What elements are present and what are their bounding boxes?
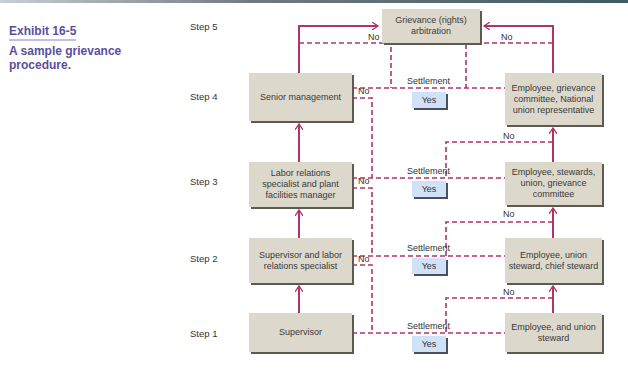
settlement-label-1: Settlement xyxy=(407,321,450,331)
no-label-left-4: No xyxy=(358,86,370,96)
no-label-right-2: No xyxy=(503,287,515,297)
yes-box-1: Yes xyxy=(412,336,446,352)
step-5-label: Step 5 xyxy=(190,21,217,32)
settlement-label-3: Settlement xyxy=(407,166,450,176)
union-step1-box: Employee, and union steward xyxy=(505,313,602,352)
no-label-left-5: No xyxy=(368,32,380,42)
yes-box-4: Yes xyxy=(412,92,446,108)
labor-relations-box: Labor relations specialist and plant fac… xyxy=(249,162,352,207)
settlement-label-4: Settlement xyxy=(407,76,450,86)
no-label-left-3: No xyxy=(358,176,370,186)
senior-management-box: Senior management xyxy=(249,73,352,121)
step-2-label: Step 2 xyxy=(190,253,217,264)
settlement-label-2: Settlement xyxy=(407,243,450,253)
supervisor-labor-box: Supervisor and labor relations specialis… xyxy=(249,238,352,283)
yes-box-2: Yes xyxy=(412,258,446,274)
union-step3-box: Employee, stewards, union, grievance com… xyxy=(505,162,602,205)
no-label-right-3: No xyxy=(503,209,515,219)
yes-box-3: Yes xyxy=(412,181,446,197)
supervisor-box: Supervisor xyxy=(249,313,352,352)
step-1-label: Step 1 xyxy=(190,328,217,339)
no-label-right-5: No xyxy=(501,32,513,42)
no-label-right-4: No xyxy=(503,131,515,141)
arbitration-box: Grievance (rights) arbitration xyxy=(382,9,480,43)
no-label-left-2: No xyxy=(358,254,370,264)
union-step2-box: Employee, union steward, chief steward xyxy=(505,238,602,283)
union-step4-box: Employee, grievance committee, National … xyxy=(505,73,602,125)
step-4-label: Step 4 xyxy=(190,91,217,102)
step-3-label: Step 3 xyxy=(190,176,217,187)
